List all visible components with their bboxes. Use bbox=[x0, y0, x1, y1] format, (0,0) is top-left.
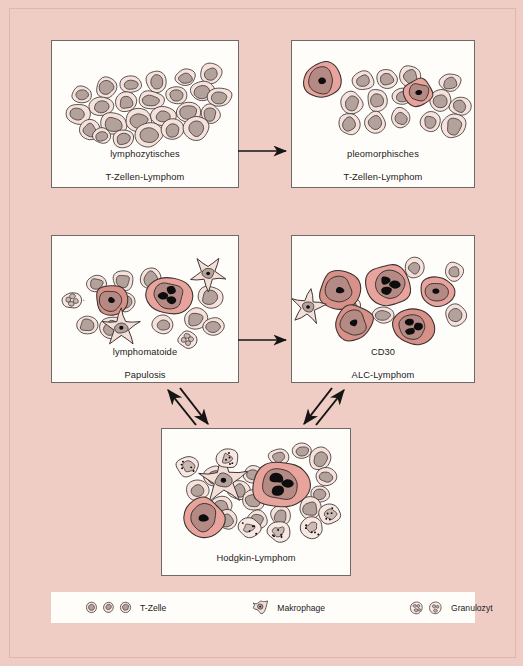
legend-item-t-zelle: T-Zelle bbox=[85, 601, 166, 614]
legend-label-t-zelle: T-Zelle bbox=[140, 603, 166, 613]
panel-label-papulosis: lymphomatoide Papulosis bbox=[52, 336, 238, 382]
granulocyte-icon bbox=[409, 601, 424, 615]
panel-label-line1: pleomorphisches bbox=[347, 149, 419, 159]
arrow-cd30-hodgkin bbox=[304, 388, 344, 425]
panel-label-line1: CD30 bbox=[371, 347, 395, 357]
legend-item-makrophage: Makrophage bbox=[252, 600, 325, 615]
t-cell-icon bbox=[85, 601, 98, 614]
panel-label-cd30: CD30 ALC-Lymphom bbox=[292, 336, 474, 382]
granulocyte-icon bbox=[428, 601, 443, 615]
panel-label-hodgkin: Hodgkin-Lymphom bbox=[162, 542, 350, 565]
panel-label-line2: T-Zellen-Lymphom bbox=[106, 172, 185, 182]
t-cell-icon bbox=[102, 601, 115, 614]
panel-lymphocytic-t-cell-lymphoma: lymphozytisches T-Zellen-Lymphom bbox=[51, 40, 239, 188]
panel-lymphomatoid-papulosis: lymphomatoide Papulosis bbox=[51, 235, 239, 383]
panel-label-pleomorphic: pleomorphisches T-Zellen-Lymphom bbox=[292, 138, 474, 184]
legend-label-makrophage: Makrophage bbox=[277, 603, 325, 613]
t-cell-icon bbox=[119, 601, 132, 614]
figure-frame: lymphozytisches T-Zellen-Lymphom pleomor… bbox=[0, 0, 523, 666]
panel-label-line1: Hodgkin-Lymphom bbox=[216, 553, 295, 563]
macrophage-icon bbox=[252, 600, 269, 615]
panel-label-line2: T-Zellen-Lymphom bbox=[344, 172, 423, 182]
panel-label-line2: Papulosis bbox=[124, 370, 165, 380]
panel-pleomorphic-t-cell-lymphoma: pleomorphisches T-Zellen-Lymphom bbox=[291, 40, 475, 188]
legend: T-Zelle Makrophage Granulozyt bbox=[51, 592, 475, 623]
panel-hodgkin-lymphoma: Hodgkin-Lymphom bbox=[161, 428, 351, 576]
legend-item-granulozyt: Granulozyt bbox=[409, 601, 493, 615]
panel-label-lymphocytic: lymphozytisches T-Zellen-Lymphom bbox=[52, 138, 238, 184]
legend-label-granulozyt: Granulozyt bbox=[451, 603, 493, 613]
panel-label-line2: ALC-Lymphom bbox=[352, 370, 415, 380]
panel-label-line1: lymphozytisches bbox=[110, 149, 180, 159]
arrow-papulosis-hodgkin bbox=[168, 388, 208, 425]
panel-label-line1: lymphomatoide bbox=[113, 347, 177, 357]
panel-cd30-alc-lymphoma: CD30 ALC-Lymphom bbox=[291, 235, 475, 383]
